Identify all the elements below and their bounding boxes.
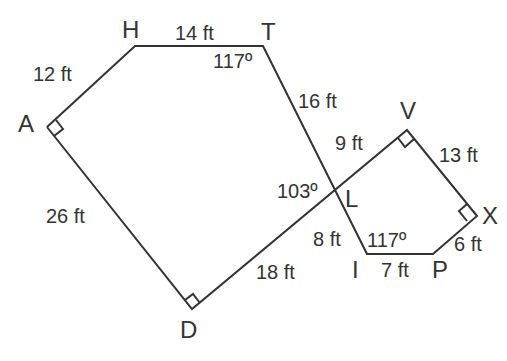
vertex-T: T [261,20,276,44]
side-LD-label: 18 ft [256,262,295,282]
right-angle-V [398,138,414,147]
vertex-P: P [432,258,448,282]
vertex-X: X [482,204,498,228]
vertex-I: I [352,258,359,282]
polygon-lines [0,0,507,361]
side-PI-label: 7 ft [381,260,409,280]
side-IL-label: 8 ft [313,229,341,249]
side-LV-label: 9 ft [335,133,363,153]
side-AH-label: 12 ft [33,64,72,84]
vertex-L: L [345,187,358,211]
side-XP-label: 6 ft [454,234,482,254]
side-HT-label: 14 ft [175,23,214,43]
angle-T-label: 117º [213,51,252,71]
angle-L-label: 103º [277,181,318,201]
side-TL-label: 16 ft [298,91,337,111]
angle-I-label: 117º [367,230,406,250]
right-angle-A [54,120,63,136]
vertex-A: A [18,112,34,136]
side-VX-label: 13 ft [439,145,478,165]
vertex-V: V [400,99,416,123]
vertex-H: H [122,18,139,42]
right-angle-X [459,204,467,221]
geometry-diagram: H T A D L V X P I 12 ft 14 ft 16 ft 9 ft… [0,0,507,361]
vertex-D: D [180,318,197,342]
side-DA-label: 26 ft [46,206,85,226]
